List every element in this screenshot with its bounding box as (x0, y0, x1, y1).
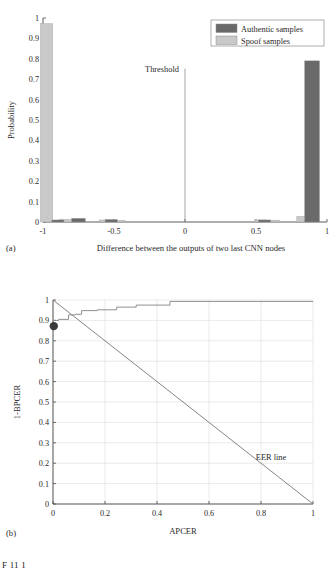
bar-series-authentic-samples (52, 61, 320, 222)
panel-b-plot: 00.10.20.30.40.50.60.70.80.9100.20.40.60… (6, 296, 315, 538)
bar-series-spoof-samples (41, 24, 309, 222)
y-tick-label: 0.3 (39, 439, 49, 448)
histogram-bar (41, 24, 53, 222)
eer-line-label: EER line (256, 453, 287, 462)
y-tick-label: 1 (35, 14, 39, 23)
legend-swatch (216, 36, 237, 45)
y-tick-label: 0.9 (29, 34, 39, 43)
x-tick-label: 1 (325, 227, 329, 236)
histogram-bar (105, 220, 117, 222)
y-tick-label: 0.5 (29, 116, 39, 125)
x-tick-label: 0.6 (204, 509, 214, 518)
y-tick-label: 0.1 (39, 480, 49, 489)
chart-panel-a: 00.10.20.30.40.50.60.70.80.91-1-0.500.51… (0, 0, 335, 280)
x-tick-label: 0.4 (152, 509, 162, 518)
x-tick-label: 0.8 (256, 509, 266, 518)
y-tick-label: 0.7 (29, 75, 39, 84)
y-tick-label: 0.6 (29, 96, 39, 105)
y-tick-label: 0.4 (29, 136, 39, 145)
x-tick-label: 0 (51, 509, 55, 518)
y-tick-label: 0.8 (39, 337, 49, 346)
panel-b-label: (b) (6, 528, 16, 538)
operating-point-marker (50, 322, 58, 330)
y-tick-label: 0.2 (29, 177, 39, 186)
histogram-bar (52, 220, 64, 222)
histogram-bar (258, 220, 270, 222)
figure-caption: F 11 1 (2, 560, 26, 572)
x-tick-label: 0.2 (100, 509, 110, 518)
y-tick-label: 0.7 (39, 357, 49, 366)
y-tick-label: 0 (45, 500, 49, 509)
legend: Authentic samplesSpoof samples (211, 20, 324, 46)
legend-label: Authentic samples (241, 25, 303, 34)
y-tick-label: 0 (35, 218, 39, 227)
panel-a-label: (a) (6, 243, 16, 253)
y-tick-label: 1 (45, 296, 49, 305)
legend-swatch (216, 24, 237, 33)
histogram-bar (305, 61, 320, 222)
y-axis-title: 1-BPCER (12, 385, 22, 420)
x-tick-label: -0.5 (108, 227, 121, 236)
x-axis-title: Difference between the outputs of two la… (97, 243, 286, 253)
y-tick-label: 0.4 (39, 418, 49, 427)
threshold-label: Threshold (145, 65, 180, 74)
y-tick-label: 0.2 (39, 459, 49, 468)
x-tick-label: 0.5 (251, 227, 261, 236)
y-tick-label: 0.5 (39, 398, 49, 407)
figure-container: 00.10.20.30.40.50.60.70.80.91-1-0.500.51… (0, 0, 335, 572)
legend-label: Spoof samples (241, 37, 290, 46)
y-tick-label: 0.3 (29, 157, 39, 166)
y-tick-label: 0.1 (29, 198, 39, 207)
x-tick-label: -1 (40, 227, 47, 236)
y-tick-label: 0.6 (39, 378, 49, 387)
x-tick-label: 0 (183, 227, 187, 236)
x-tick-label: 1 (311, 509, 315, 518)
y-tick-label: 0.9 (39, 316, 49, 325)
panel-a-plot: 00.10.20.30.40.50.60.70.80.91-1-0.500.51… (6, 14, 329, 253)
x-axis-title: APCER (169, 526, 197, 536)
y-tick-label: 0.8 (29, 55, 39, 64)
y-axis-title: Probability (6, 100, 16, 139)
roc-curve (53, 301, 313, 326)
chart-panel-b: 00.10.20.30.40.50.60.70.80.9100.20.40.60… (0, 280, 335, 572)
histogram-bar (72, 218, 85, 222)
